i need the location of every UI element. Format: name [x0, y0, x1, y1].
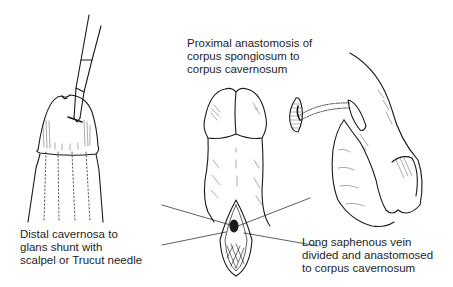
- middle-panel-drawing: [162, 88, 318, 276]
- scalpel-icon: [74, 15, 101, 122]
- right-panel-drawing: [290, 53, 422, 227]
- caption-line: scalpel or Trucut needle: [20, 254, 142, 267]
- caption-line: glans shunt with: [20, 241, 142, 254]
- caption-line: Distal cavernosa to: [20, 228, 142, 241]
- caption-line: Proximal anastomosis of: [187, 37, 312, 50]
- caption-line: corpus cavernosum: [187, 63, 312, 76]
- right-panel-caption: Long saphenous vein divided and anastomo…: [302, 236, 433, 275]
- caption-line: Long saphenous vein: [302, 236, 433, 249]
- middle-panel-caption: Proximal anastomosis of corpus spongiosu…: [187, 37, 312, 76]
- left-panel-drawing: [28, 15, 103, 222]
- caption-line: to corpus cavernosum: [302, 262, 433, 275]
- left-panel-caption: Distal cavernosa to glans shunt with sca…: [20, 228, 142, 267]
- caption-line: corpus spongiosum to: [187, 50, 312, 63]
- caption-line: divided and anastomosed: [302, 249, 433, 262]
